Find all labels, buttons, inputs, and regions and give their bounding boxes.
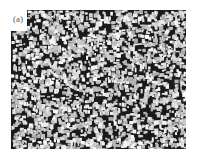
micrograph-image bbox=[11, 10, 186, 149]
scale-bar bbox=[160, 138, 176, 140]
micrograph-figure: (a) bbox=[0, 0, 199, 153]
panel-label: (a) bbox=[13, 14, 23, 24]
grain-texture bbox=[11, 10, 186, 149]
